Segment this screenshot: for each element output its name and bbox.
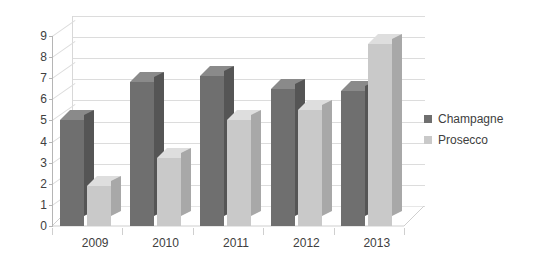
bar-champagne-2009[interactable] [60,120,84,226]
bar-face [271,89,295,226]
bar-group [334,36,404,226]
bar-face [60,120,84,226]
gridline [73,16,425,17]
bar-prosecco-2009[interactable] [87,186,111,226]
bar-face [368,44,392,226]
bar-chart: 0123456789 20092010201120122013 Champagn… [0,0,541,267]
y-axis-tick-label: 2 [40,177,47,191]
y-axis-tick-label: 1 [40,198,47,212]
x-axis-label-2013: 2013 [363,236,390,250]
bar-face [200,76,224,226]
x-axis-separator [263,228,264,235]
x-axis-separator [122,228,123,235]
x-axis-labels: 20092010201120122013 [52,236,424,256]
bar-champagne-2010[interactable] [130,82,154,226]
bar-group [122,36,192,226]
x-axis-label-2009: 2009 [82,236,109,250]
x-axis-label-2011: 2011 [223,236,249,250]
bar-face [298,110,322,226]
bar-prosecco-2013[interactable] [368,44,392,226]
y-axis-tick [49,226,53,227]
bar-champagne-2011[interactable] [200,76,224,226]
bar-face [130,82,154,226]
bar-prosecco-2012[interactable] [298,110,322,226]
legend-label: Prosecco [438,133,488,147]
y-axis-tick-label: 8 [40,50,47,64]
legend-item-champagne[interactable]: Champagne [424,108,536,129]
legend-swatch-icon [424,115,432,123]
y-axis-tick-label: 6 [40,92,47,106]
bar-side [251,110,261,216]
x-axis-separator [52,228,53,235]
bar-side [322,100,332,216]
x-axis-separator [193,228,194,235]
bar-side [111,176,121,216]
x-axis-label-2012: 2012 [293,236,320,250]
y-axis-tick-label: 5 [40,113,47,127]
bar-side [181,148,191,216]
legend-label: Champagne [438,112,503,126]
bars-layer [52,36,404,226]
bar-face [157,158,181,226]
bar-group [193,36,263,226]
bar-group [52,36,122,226]
bar-prosecco-2011[interactable] [227,120,251,226]
bar-prosecco-2010[interactable] [157,158,181,226]
bar-face [87,186,111,226]
y-axis-tick-label: 3 [40,156,47,170]
legend-item-prosecco[interactable]: Prosecco [424,129,536,150]
y-axis-tick-label: 9 [40,29,47,43]
y-axis-tick-label: 4 [40,135,47,149]
x-axis-separator [404,228,405,235]
bar-side [392,34,402,216]
bar-face [341,91,365,226]
chart-legend: ChampagneProsecco [424,108,536,150]
bar-champagne-2013[interactable] [341,91,365,226]
x-axis-separator [334,228,335,235]
bar-face [227,120,251,226]
x-axis-label-2010: 2010 [152,236,179,250]
y-axis-tick-label: 0 [40,219,47,233]
legend-swatch-icon [424,136,432,144]
bar-champagne-2012[interactable] [271,89,295,226]
bar-group [263,36,333,226]
y-axis-tick-label: 7 [40,71,47,85]
